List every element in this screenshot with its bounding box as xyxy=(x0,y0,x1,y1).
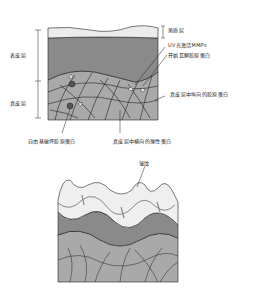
wrinkled-skin-figure xyxy=(58,166,178,282)
label-epidermis: 表皮层 xyxy=(10,52,26,58)
stratum-corneum-layer xyxy=(48,26,158,38)
healthy-skin-figure xyxy=(35,26,167,133)
label-uv-mmps: UV光激活MMPs xyxy=(168,42,207,48)
skin-diagram xyxy=(0,0,267,297)
label-horizontal-elastin: 真皮层中横向的弹性蛋白 xyxy=(113,138,171,144)
label-vertical-collagen: 真皮层中纵向的胶原蛋白 xyxy=(170,91,228,97)
label-stratum-corneum: 角质层 xyxy=(168,27,184,33)
label-collagen-breakdown: 开始瓦解胶原蛋白 xyxy=(168,52,210,58)
label-free-radicals: 自由基破坏胶原蛋白 xyxy=(28,138,76,144)
label-dermis: 真皮层 xyxy=(10,100,26,106)
label-wrinkle: 皱纹 xyxy=(139,160,150,166)
